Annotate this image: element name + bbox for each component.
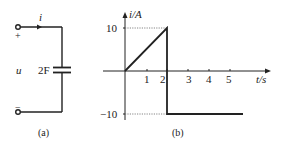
y-axis-label: i/A [129, 9, 142, 20]
y-axis-label-text: i/A [129, 8, 142, 20]
x-tick-label-2: 2 [160, 74, 166, 85]
top-terminal [16, 25, 21, 30]
current-arrow-icon [37, 25, 42, 30]
graph-b [103, 12, 271, 120]
capacitor-label: 2F [38, 65, 50, 76]
x-tick-label-5: 5 [226, 74, 232, 85]
x-axis-label: t/s [256, 74, 266, 85]
y-tick-label-neg10: −10 [100, 109, 117, 120]
x-tick-label-3: 3 [186, 74, 192, 85]
voltage-label: u [16, 65, 22, 76]
x-tick-label-4: 4 [206, 74, 212, 85]
y-tick-label-10: 10 [106, 23, 117, 34]
plus-sign: + [15, 30, 21, 41]
caption-a: (a) [38, 127, 49, 138]
x-tick-label-1: 1 [144, 74, 150, 85]
caption-b: (b) [172, 127, 184, 138]
current-label: i [39, 12, 42, 23]
minus-sign: − [15, 102, 21, 113]
y-axis-arrow-icon [123, 12, 128, 18]
